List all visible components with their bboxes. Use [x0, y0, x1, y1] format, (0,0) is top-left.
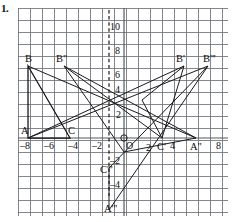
y-tick-4: 4: [115, 85, 120, 95]
point-label-b1: B': [176, 54, 185, 65]
triangle-abc: [28, 66, 70, 138]
y-tick--4: –4: [110, 180, 120, 190]
x-tick-2: 2: [146, 143, 151, 153]
y-tick-10: 10: [110, 22, 120, 32]
point-label-c1: C': [157, 142, 166, 153]
y-tick-8: 8: [115, 46, 120, 56]
x-tick--2: –2: [92, 141, 102, 151]
x-tick--6: –6: [44, 141, 54, 151]
x-tick--4: –4: [68, 141, 78, 151]
connector-a-to-b1: [28, 66, 184, 138]
point-label-b2: B": [56, 54, 67, 65]
connector-b2-to-c1: [64, 66, 162, 138]
point-label-b: B: [25, 54, 32, 65]
x-tick-4: 4: [170, 141, 175, 151]
point-label-c: C: [68, 126, 75, 137]
point-label-a3: A''': [104, 204, 117, 215]
y-tick-2: 2: [116, 110, 121, 120]
point-label-c3: C''': [100, 165, 113, 176]
y-tick-6: 6: [115, 70, 120, 80]
x-tick-8: 8: [216, 141, 221, 151]
origin-label: O: [126, 141, 133, 151]
point-label-b3: B''': [203, 54, 216, 65]
point-label-a2: A": [190, 142, 202, 153]
point-label-a: A: [21, 126, 29, 137]
coordinate-plane-figure: 1. –8 –6 –4 –2 2 4 8 10 8 6 4 2: [0, 0, 236, 222]
x-tick--8: –8: [20, 141, 30, 151]
